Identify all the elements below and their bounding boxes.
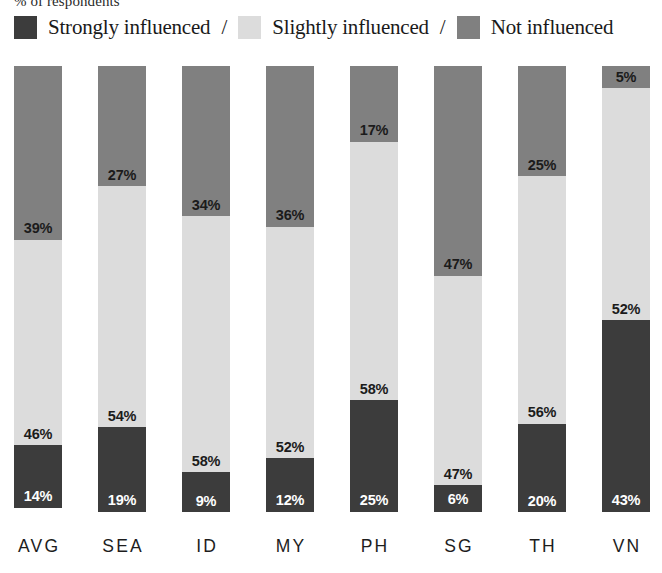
bar-column-sg[interactable]: 47%47%6% <box>434 66 482 512</box>
bar-value-label-id-slightly: 58% <box>182 454 230 469</box>
bar-segment-id-slightly[interactable]: 58% <box>182 216 230 472</box>
bar-value-label-th-slightly: 56% <box>518 405 566 420</box>
bar-value-label-sea-not: 27% <box>98 168 146 183</box>
legend-separator: / <box>440 15 446 40</box>
bar-value-label-sg-not: 47% <box>434 257 482 272</box>
bar-value-label-sea-strongly: 19% <box>98 493 146 508</box>
category-label-id: ID <box>182 536 230 557</box>
bar-segment-my-slightly[interactable]: 52% <box>266 227 314 459</box>
bar-segment-avg-not[interactable]: 39% <box>14 66 62 240</box>
bar-segment-sg-strongly[interactable]: 6% <box>434 485 482 512</box>
bar-segment-vn-not[interactable]: 5% <box>602 66 650 88</box>
category-label-sg: SG <box>434 536 482 557</box>
bar-segment-sea-slightly[interactable]: 54% <box>98 186 146 427</box>
bar-segment-id-strongly[interactable]: 9% <box>182 472 230 512</box>
category-label-vn: VN <box>602 536 650 557</box>
bar-segment-th-not[interactable]: 25% <box>518 66 566 176</box>
bar-value-label-ph-not: 17% <box>350 123 398 138</box>
category-axis-labels: AVGSEAIDMYPHSGTHVN <box>0 536 662 566</box>
bar-segment-avg-strongly[interactable]: 14% <box>14 445 62 507</box>
category-label-th: TH <box>518 536 566 557</box>
legend-swatch-slightly-icon <box>238 16 261 39</box>
bar-value-label-my-not: 36% <box>266 208 314 223</box>
bar-column-vn[interactable]: 5%52%43% <box>602 66 650 512</box>
bar-segment-ph-slightly[interactable]: 58% <box>350 142 398 401</box>
bar-segment-id-not[interactable]: 34% <box>182 66 230 216</box>
bar-value-label-vn-not: 5% <box>602 70 650 85</box>
chart-legend: Strongly influenced/Slightly influenced/… <box>14 12 654 42</box>
bar-column-sea[interactable]: 27%54%19% <box>98 66 146 512</box>
legend-label-not: Not influenced <box>491 15 614 40</box>
legend-item-strongly[interactable]: Strongly influenced <box>14 15 210 40</box>
bar-segment-avg-slightly[interactable]: 46% <box>14 240 62 445</box>
bar-value-label-sg-slightly: 47% <box>434 467 482 482</box>
bar-value-label-ph-strongly: 25% <box>350 493 398 508</box>
legend-label-slightly: Slightly influenced <box>272 15 429 40</box>
category-label-sea: SEA <box>98 536 146 557</box>
bar-segment-th-strongly[interactable]: 20% <box>518 424 566 512</box>
bar-value-label-id-not: 34% <box>182 198 230 213</box>
bar-value-label-th-strongly: 20% <box>518 494 566 509</box>
legend-separator: / <box>221 15 227 40</box>
bar-value-label-avg-not: 39% <box>14 221 62 236</box>
bar-value-label-vn-strongly: 43% <box>602 493 650 508</box>
category-label-avg: AVG <box>14 536 62 557</box>
bar-segment-vn-strongly[interactable]: 43% <box>602 320 650 512</box>
legend-item-not[interactable]: Not influenced <box>457 15 614 40</box>
bar-segment-th-slightly[interactable]: 56% <box>518 176 566 423</box>
bar-column-ph[interactable]: 17%58%25% <box>350 66 398 512</box>
legend-label-strongly: Strongly influenced <box>48 15 210 40</box>
legend-item-slightly[interactable]: Slightly influenced <box>238 15 429 40</box>
bar-segment-vn-slightly[interactable]: 52% <box>602 88 650 320</box>
legend-swatch-strongly-icon <box>14 16 37 39</box>
stacked-bar-plot-area: 39%46%14%27%54%19%34%58%9%36%52%12%17%58… <box>0 66 662 512</box>
bar-column-id[interactable]: 34%58%9% <box>182 66 230 512</box>
bar-value-label-my-slightly: 52% <box>266 440 314 455</box>
category-label-ph: PH <box>350 536 398 557</box>
bar-segment-sg-slightly[interactable]: 47% <box>434 276 482 486</box>
bar-value-label-sg-strongly: 6% <box>434 491 482 506</box>
category-label-my: MY <box>266 536 314 557</box>
bar-segment-ph-strongly[interactable]: 25% <box>350 400 398 512</box>
bar-value-label-avg-strongly: 14% <box>14 489 62 504</box>
bar-value-label-vn-slightly: 52% <box>602 302 650 317</box>
chart-subtitle: % of respondents <box>14 0 120 10</box>
bar-value-label-sea-slightly: 54% <box>98 409 146 424</box>
bar-segment-my-strongly[interactable]: 12% <box>266 458 314 512</box>
bar-value-label-id-strongly: 9% <box>182 494 230 509</box>
bar-column-th[interactable]: 25%56%20% <box>518 66 566 512</box>
bar-segment-sg-not[interactable]: 47% <box>434 66 482 276</box>
bar-value-label-my-strongly: 12% <box>266 493 314 508</box>
bar-segment-sea-not[interactable]: 27% <box>98 66 146 186</box>
bar-segment-sea-strongly[interactable]: 19% <box>98 427 146 512</box>
legend-swatch-not-icon <box>457 16 480 39</box>
bar-segment-ph-not[interactable]: 17% <box>350 66 398 142</box>
bar-value-label-avg-slightly: 46% <box>14 427 62 442</box>
bar-column-my[interactable]: 36%52%12% <box>266 66 314 512</box>
bar-value-label-th-not: 25% <box>518 158 566 173</box>
bar-value-label-ph-slightly: 58% <box>350 382 398 397</box>
bar-segment-my-not[interactable]: 36% <box>266 66 314 227</box>
bar-column-avg[interactable]: 39%46%14% <box>14 66 62 512</box>
